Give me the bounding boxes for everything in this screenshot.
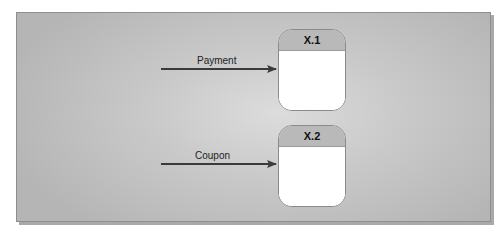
process-x1-id: X.1 bbox=[279, 30, 345, 51]
process-x2-id: X.2 bbox=[279, 126, 345, 147]
coupon-flow-label: Coupon bbox=[195, 150, 230, 161]
process-x1: X.1 bbox=[278, 29, 346, 111]
process-x2: X.2 bbox=[278, 125, 346, 207]
diagram-stage: Payment Coupon X.1 X.2 bbox=[0, 0, 504, 236]
payment-flow-label: Payment bbox=[197, 55, 236, 66]
process-x2-body bbox=[279, 147, 345, 206]
process-x1-body bbox=[279, 51, 345, 110]
diagram-panel bbox=[16, 12, 491, 222]
